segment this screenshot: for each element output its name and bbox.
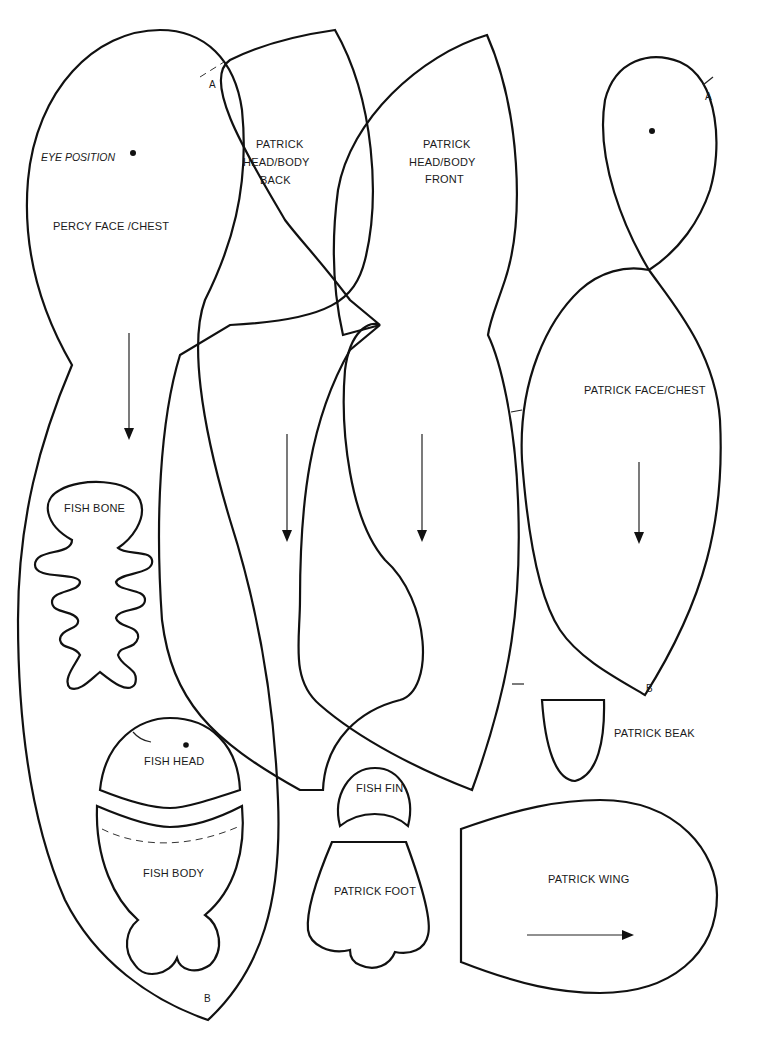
patrick-face-chest-label: PATRICK FACE/CHEST bbox=[584, 384, 706, 396]
patrick-face-grain-arrow bbox=[634, 462, 644, 544]
patrick-wing-grain-arrow bbox=[527, 930, 634, 940]
fish-head-label: FISH HEAD bbox=[144, 755, 204, 767]
patrick-front-label-line1: PATRICK bbox=[423, 138, 471, 150]
fish-fin-outline bbox=[338, 768, 410, 826]
percy-face-chest-label: PERCY FACE /CHEST bbox=[53, 220, 169, 232]
fish-fin-piece: FISH FIN bbox=[338, 768, 410, 826]
patrick-front-outline bbox=[298, 35, 518, 790]
patrick-face-chest-outline bbox=[522, 57, 721, 695]
patrick-eye-dot bbox=[649, 128, 655, 134]
percy-eye-dot bbox=[130, 150, 136, 156]
fish-body-outline bbox=[97, 806, 243, 974]
patrick-foot-piece: PATRICK FOOT bbox=[308, 842, 429, 968]
patrick-wing-piece: PATRICK WING bbox=[461, 800, 717, 993]
fish-head-piece: FISH HEAD bbox=[100, 718, 240, 808]
patrick-back-label-line1: PATRICK bbox=[256, 138, 304, 150]
patrick-back-label-line3: BACK bbox=[260, 174, 291, 186]
percy-marker-b: B bbox=[204, 993, 211, 1004]
fish-body-placement-line bbox=[102, 826, 240, 843]
patrick-front-label-line3: FRONT bbox=[425, 173, 464, 185]
fish-eye-dot bbox=[183, 742, 189, 748]
patrick-front-label-line2: HEAD/BODY bbox=[409, 156, 476, 168]
patrick-face-chest-piece: A PATRICK FACE/CHEST B bbox=[522, 57, 721, 695]
patrick-wing-label: PATRICK WING bbox=[548, 873, 629, 885]
patrick-wing-outline bbox=[461, 800, 717, 993]
percy-marker-a: A bbox=[209, 79, 216, 90]
patrick-face-marker-a: A bbox=[705, 91, 712, 102]
patrick-beak-label: PATRICK BEAK bbox=[614, 727, 695, 739]
fish-fin-label: FISH FIN bbox=[356, 782, 403, 794]
fish-body-label: FISH BODY bbox=[143, 867, 205, 879]
patrick-back-label-line2: HEAD/BODY bbox=[243, 156, 310, 168]
patrick-face-notch-a bbox=[703, 77, 713, 85]
percy-eye-position-label: EYE POSITION bbox=[41, 151, 116, 163]
patrick-head-body-front-piece bbox=[298, 35, 524, 790]
patrick-front-notch-upper bbox=[511, 410, 522, 412]
fish-gill-line bbox=[133, 732, 151, 742]
pattern-sheet: A EYE POSITION PERCY FACE /CHEST B PATRI… bbox=[0, 0, 766, 1055]
patrick-face-marker-b: B bbox=[646, 683, 653, 694]
fish-bone-label: FISH BONE bbox=[64, 502, 125, 514]
patrick-front-grain-arrow bbox=[417, 434, 427, 542]
patrick-beak-piece: PATRICK BEAK bbox=[542, 700, 695, 781]
patrick-foot-label: PATRICK FOOT bbox=[334, 885, 416, 897]
percy-grain-arrow bbox=[124, 333, 134, 440]
patrick-beak-outline bbox=[542, 700, 604, 781]
patrick-foot-outline bbox=[308, 842, 429, 968]
patrick-back-grain-arrow bbox=[282, 434, 292, 542]
fish-body-piece: FISH BODY bbox=[97, 806, 243, 974]
fish-bone-piece: FISH BONE bbox=[35, 482, 152, 689]
